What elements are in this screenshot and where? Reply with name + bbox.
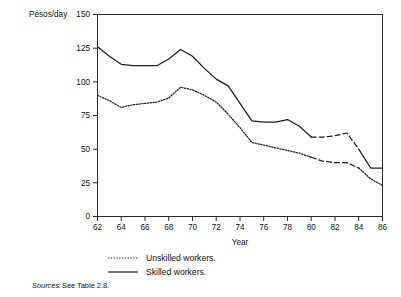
series-line-unskilled-projected: [311, 157, 359, 168]
y-axis-ticks: [93, 15, 98, 217]
y-tick-label-150: 150: [76, 10, 90, 19]
y-tick-label-0: 0: [85, 212, 90, 221]
y-tick-label-100: 100: [76, 78, 90, 87]
legend-label-skilled: Skilled workers.: [146, 267, 206, 277]
y-tick-label-75: 75: [81, 111, 91, 120]
series-line-skilled: [98, 47, 312, 137]
x-tick-label-80: 80: [307, 223, 317, 232]
source-text: See Table 2.8.: [62, 281, 109, 290]
series-line-skilled-projected: [311, 133, 359, 149]
x-tick-label-72: 72: [212, 223, 222, 232]
x-tick-label-64: 64: [117, 223, 127, 232]
x-tick-label-78: 78: [283, 223, 293, 232]
source-label: Sources:: [32, 281, 61, 290]
line-chart: 150 125 100 75 50 25 0 Pesos/day 62 64 6…: [0, 0, 401, 297]
x-tick-label-66: 66: [140, 223, 150, 232]
x-tick-label-86: 86: [378, 223, 388, 232]
series-line-unskilled-end: [359, 168, 383, 186]
x-axis-title: Year: [232, 238, 249, 247]
legend: Unskilled workers. Skilled workers.: [108, 253, 216, 277]
series-line-unskilled: [98, 87, 312, 157]
series-line-skilled-end: [359, 149, 383, 168]
x-axis-ticks: [98, 217, 383, 222]
y-axis-title: Pesos/day: [29, 10, 68, 19]
x-tick-label-62: 62: [93, 223, 103, 232]
y-tick-label-125: 125: [76, 44, 90, 53]
x-tick-label-76: 76: [259, 223, 269, 232]
x-tick-label-74: 74: [235, 223, 245, 232]
y-tick-label-25: 25: [81, 179, 91, 188]
plot-frame: [98, 15, 383, 217]
y-tick-label-50: 50: [81, 145, 91, 154]
x-tick-label-82: 82: [330, 223, 340, 232]
figure-container: 150 125 100 75 50 25 0 Pesos/day 62 64 6…: [0, 0, 401, 297]
legend-label-unskilled: Unskilled workers.: [146, 253, 216, 263]
x-tick-label-68: 68: [164, 223, 174, 232]
x-tick-label-84: 84: [354, 223, 364, 232]
x-tick-label-70: 70: [188, 223, 198, 232]
